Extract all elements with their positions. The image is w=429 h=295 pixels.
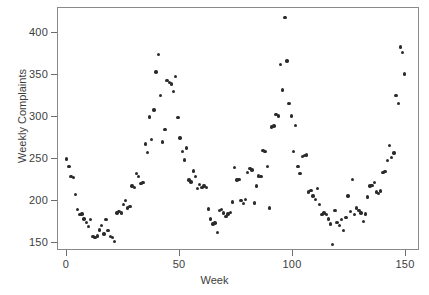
data-point (213, 221, 216, 224)
data-point (401, 51, 404, 54)
data-point (373, 181, 376, 184)
data-point (379, 189, 382, 192)
x-tick-label: 0 (46, 258, 86, 270)
data-point (98, 228, 101, 231)
data-point (137, 175, 140, 178)
data-point (392, 151, 395, 154)
data-point (170, 82, 173, 85)
data-point (216, 231, 219, 234)
data-point (268, 206, 271, 209)
data-point (340, 218, 343, 221)
data-point (161, 140, 164, 143)
data-point (394, 94, 397, 97)
x-tick-mark (179, 250, 180, 256)
data-point (178, 136, 181, 139)
data-point (172, 90, 175, 93)
data-point (255, 184, 258, 187)
data-point (163, 128, 166, 131)
data-point (65, 157, 68, 160)
data-point (209, 217, 212, 220)
data-point (111, 236, 114, 239)
data-point (231, 200, 234, 203)
x-tick-label: 150 (385, 258, 425, 270)
data-point (309, 189, 312, 192)
x-tick-mark (405, 250, 406, 256)
data-point (283, 16, 286, 19)
data-point (242, 202, 245, 205)
data-point (399, 45, 402, 48)
x-tick-label: 100 (272, 258, 312, 270)
data-point (144, 142, 147, 145)
data-point (124, 199, 127, 202)
data-point (290, 114, 293, 117)
data-point (76, 208, 79, 211)
data-point (316, 187, 319, 190)
x-tick-mark (66, 250, 67, 256)
data-point (333, 209, 336, 212)
data-point (383, 170, 386, 173)
y-tick-label: 200 (18, 194, 48, 206)
data-point (281, 88, 284, 91)
data-point (338, 224, 341, 227)
data-point (266, 165, 269, 168)
plot-area (57, 7, 419, 250)
data-point (359, 211, 362, 214)
data-point (346, 194, 349, 197)
y-tick-label: 400 (18, 26, 48, 38)
data-point (205, 186, 208, 189)
data-point (72, 176, 75, 179)
data-point (318, 203, 321, 206)
data-point (102, 232, 105, 235)
data-point (148, 115, 151, 118)
data-point (157, 53, 160, 56)
data-point (327, 217, 330, 220)
data-point (403, 72, 406, 75)
data-point (349, 210, 352, 213)
x-axis-title: Week (0, 274, 429, 286)
data-point (87, 225, 90, 228)
data-point (154, 70, 157, 73)
data-point (287, 102, 290, 105)
data-point (362, 220, 365, 223)
data-point (181, 150, 184, 153)
data-point (150, 138, 153, 141)
data-point (106, 229, 109, 232)
data-point (196, 187, 199, 190)
data-point (331, 243, 334, 246)
data-point (152, 108, 155, 111)
data-point (298, 172, 301, 175)
data-point (133, 186, 136, 189)
data-point (207, 207, 210, 210)
data-point (246, 171, 249, 174)
data-point (305, 153, 308, 156)
data-point (325, 213, 328, 216)
data-point (370, 184, 373, 187)
data-point (279, 63, 282, 66)
data-point (344, 216, 347, 219)
y-tick-label: 150 (18, 236, 48, 248)
data-point (120, 211, 123, 214)
data-point (329, 222, 332, 225)
data-point (397, 102, 400, 105)
data-point (364, 212, 367, 215)
data-point (292, 150, 295, 153)
data-point (386, 159, 389, 162)
data-point (263, 150, 266, 153)
data-point (259, 175, 262, 178)
data-point (192, 169, 195, 172)
data-point (194, 175, 197, 178)
data-point (388, 144, 391, 147)
data-point (294, 124, 297, 127)
data-point (237, 178, 240, 181)
data-point (141, 181, 144, 184)
data-point (296, 165, 299, 168)
data-point (159, 94, 162, 97)
data-point (80, 212, 83, 215)
data-point (185, 146, 188, 149)
data-point (128, 205, 131, 208)
data-point (113, 240, 116, 243)
data-point (253, 201, 256, 204)
data-point (174, 75, 177, 78)
data-point (390, 156, 393, 159)
data-point (104, 218, 107, 221)
